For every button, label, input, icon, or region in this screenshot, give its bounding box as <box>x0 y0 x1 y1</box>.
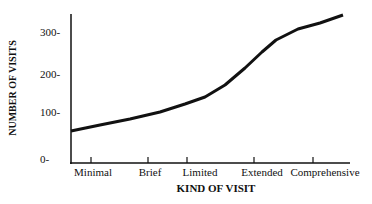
y-tick-200: 200- <box>40 68 60 80</box>
x-label-extended: Extended <box>241 166 283 178</box>
y-tick-100: 100- <box>40 106 60 118</box>
y-tick-300: 300- <box>40 26 60 38</box>
x-label-minimal: Minimal <box>74 166 112 178</box>
y-axis-title: NUMBER OF VISITS <box>7 40 18 136</box>
x-ticks <box>91 157 313 163</box>
x-label-comprehensive: Comprehensive <box>290 166 359 178</box>
x-label-limited: Limited <box>183 166 218 178</box>
x-axis-title: KIND OF VISIT <box>0 182 372 194</box>
x-label-brief: Brief <box>139 166 162 178</box>
data-line <box>71 15 343 131</box>
y-tick-0: 0- <box>40 153 49 165</box>
